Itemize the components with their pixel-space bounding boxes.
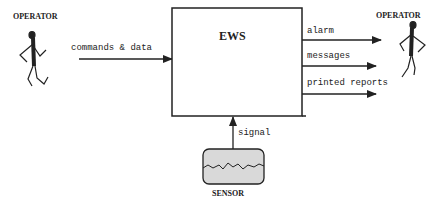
context-diagram: OPERATOR commands & data EWS alarm messa… [0,0,438,205]
right-operator: OPERATOR [376,11,425,77]
sensor-flow: signal [233,117,270,149]
left-operator-stick-figure-icon [20,32,48,87]
output-flows: alarm messages printed reports [302,26,388,94]
ews-system: EWS [172,8,306,116]
right-operator-stick-figure-icon [400,22,425,78]
sensor-label: SENSOR [212,189,244,198]
commands-data-label: commands & data [71,43,153,53]
printed-reports-label: printed reports [307,78,388,88]
alarm-label: alarm [307,26,334,36]
ews-label: EWS [219,29,246,43]
sensor: SENSOR [203,149,264,198]
ews-box [172,8,302,116]
left-operator: OPERATOR [13,12,58,86]
signal-label: signal [238,128,270,138]
right-operator-label: OPERATOR [376,11,421,20]
messages-label: messages [307,51,350,61]
left-operator-label: OPERATOR [13,12,58,21]
input-flow: commands & data [71,43,172,59]
